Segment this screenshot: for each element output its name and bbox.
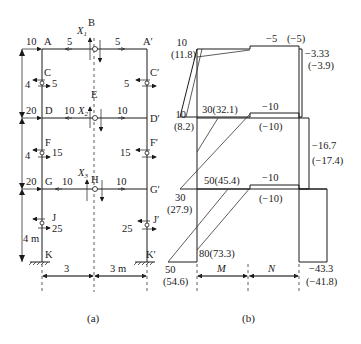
m-mid-right-alt: (−10) [259, 121, 283, 133]
redundant-x2-label: X2 [77, 105, 88, 118]
m-low-right-alt: (−10) [259, 193, 283, 205]
load-J: 25 [52, 223, 63, 234]
load-J-prime: 25 [122, 223, 133, 234]
node-G-label: G [45, 176, 53, 187]
n-base-alt: (−41.8) [306, 276, 338, 288]
node-J-label: J [52, 212, 56, 223]
m-base-left-alt: (54.6) [163, 276, 189, 288]
node-K-label: K [45, 249, 53, 260]
m-low-right-value: −10 [262, 172, 278, 183]
node-D-prime-label: D′ [150, 113, 160, 124]
load-BA-prime: 5 [115, 36, 120, 47]
dimension-h1: 4 [25, 79, 31, 90]
node-D-label: D [45, 105, 53, 116]
node-J-prime-label: J′ [153, 214, 159, 225]
m-top-left-alt: (11.8) [171, 49, 196, 61]
dimension-width-right: 3 m [110, 263, 126, 274]
load-top-left: 10 [26, 36, 37, 47]
node-F-label: F [45, 137, 51, 148]
n-top-value: −3.33 [305, 48, 329, 59]
node-C-prime-label: C′ [150, 67, 159, 78]
node-K-prime-label: K′ [146, 249, 156, 260]
hinge-C [33, 80, 50, 86]
hinge-F-prime [136, 150, 156, 157]
fixed-support-left [29, 262, 50, 265]
redundant-x2-arrows [90, 107, 101, 131]
node-H-label: H [91, 174, 99, 185]
m-base-value: 80(73.3) [199, 248, 235, 260]
node-C-label: C [44, 67, 51, 78]
load-mid-left: 20 [26, 105, 37, 116]
redundant-x3-label: X3 [77, 167, 88, 180]
m-mid-left-alt: (8.2) [174, 121, 195, 133]
m-mid-right-value: −10 [262, 101, 278, 112]
m-low-left-value: 30 [175, 192, 186, 203]
redundant-x1-label: X1 [76, 25, 87, 38]
n-top-alt: (−3.9) [308, 60, 335, 72]
node-G-prime-label: G′ [150, 184, 160, 195]
node-B-label: B [88, 17, 95, 28]
load-C-prime: 5 [124, 78, 129, 89]
diagram-canvas: 10 A 5 B X1 5 A′ C 4 5 5 C′ E 20 D 10 X2… [0, 0, 361, 344]
load-low-left: 20 [26, 176, 37, 187]
figure-a-caption: (a) [87, 312, 100, 325]
node-F-prime-label: F′ [150, 137, 158, 148]
load-F-prime: 15 [120, 147, 131, 158]
load-ED-prime: 10 [117, 105, 128, 116]
load-DE: 10 [64, 105, 75, 116]
node-A-label: A [44, 36, 52, 47]
n-base-value: −43.3 [309, 263, 333, 274]
redundant-x1-arrows [90, 38, 100, 62]
load-HG-prime: 10 [116, 176, 127, 187]
m-top-right-alt: (−5) [287, 33, 306, 45]
n-mid-alt: (−17.4) [312, 155, 344, 167]
column-label-M: M [216, 263, 227, 274]
dimension-h3: 4 m [23, 233, 39, 244]
load-GH: 10 [62, 176, 73, 187]
frame-diagram-a: 10 A 5 B X1 5 A′ C 4 5 5 C′ E 20 D 10 X2… [19, 17, 160, 325]
m-low-value: 50(45.4) [204, 175, 240, 187]
n-mid-value: −16.7 [312, 140, 336, 151]
fixed-support-right [134, 262, 155, 265]
m-mid-value: 30(32.1) [202, 104, 238, 116]
column-label-N: N [267, 263, 276, 274]
m-top-right-value: −5 [266, 33, 277, 44]
dimension-h2: 4 [25, 150, 31, 161]
hinge-C-prime [136, 80, 156, 86]
load-C: 5 [52, 78, 57, 89]
m-base-left-value: 50 [165, 264, 176, 275]
load-F: 15 [52, 147, 63, 158]
moment-force-diagram-b: 10 (11.8) −5 (−5) −3.33 (−3.9) 10 (8.2) … [163, 33, 344, 325]
node-A-prime-label: A′ [143, 36, 153, 47]
node-E-label: E [91, 89, 97, 100]
figure-b-caption: (b) [242, 312, 255, 325]
load-AB: 5 [67, 36, 72, 47]
m-mid-left-value: 10 [176, 109, 187, 120]
m-top-left-value: 10 [177, 37, 188, 48]
dimension-width-left: 3 [64, 263, 69, 274]
m-low-left-alt: (27.9) [167, 204, 193, 216]
